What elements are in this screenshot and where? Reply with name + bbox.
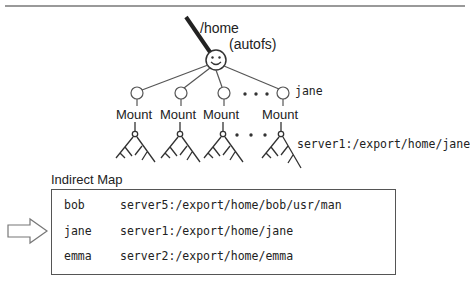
map-row: bob server5:/export/home/bob/usr/man [64, 198, 342, 212]
indirect-map-title: Indirect Map [51, 172, 123, 187]
mount-label-4: Mount [262, 107, 298, 122]
map-key: jane [64, 224, 120, 238]
leaf-user-label: jane [295, 84, 323, 98]
mount-label-3: Mount [203, 107, 239, 122]
indirect-map-table: bob server5:/export/home/bob/usr/man jan… [51, 189, 396, 275]
map-row: jane server1:/export/home/jane [64, 224, 293, 238]
map-location: server5:/export/home/bob/usr/man [120, 198, 342, 212]
map-key: bob [64, 198, 120, 212]
map-row: emma server2:/export/home/emma [64, 249, 293, 263]
map-location: server1:/export/home/jane [120, 224, 293, 238]
leaf-source-label: server1:/export/home/jane [297, 137, 470, 151]
arrow-icon [8, 219, 47, 243]
mount-label-1: Mount [116, 107, 152, 122]
mount-label-2: Mount [160, 107, 196, 122]
map-key: emma [64, 249, 120, 263]
smiley-icon [206, 50, 226, 70]
root-type-label: (autofs) [229, 36, 276, 52]
root-path-label: /home [200, 20, 239, 36]
map-location: server2:/export/home/emma [120, 249, 293, 263]
